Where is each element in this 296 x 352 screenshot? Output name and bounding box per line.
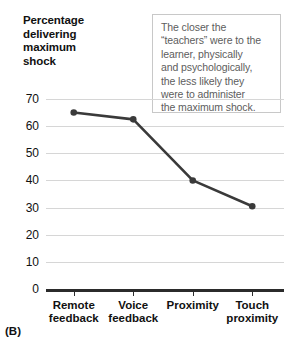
- callout-line: and psychologically,: [161, 61, 273, 74]
- callout-line: the less likely they: [161, 75, 273, 88]
- x-axis-tick-label: Touchproximity: [226, 299, 278, 325]
- x-axis-tick-label-line: feedback: [49, 312, 99, 325]
- y-axis-tick-label: 70: [26, 92, 39, 106]
- x-axis-tick-label-line: proximity: [226, 312, 278, 325]
- x-axis-tick-label: Remotefeedback: [49, 299, 99, 325]
- x-axis-tick-label-line: Voice: [108, 299, 158, 312]
- x-axis-tick: [252, 292, 253, 296]
- y-axis-tick-label: 40: [26, 173, 39, 187]
- y-axis-tick-label: 30: [26, 201, 39, 215]
- series-line: [74, 113, 253, 207]
- panel-label: (B): [5, 325, 21, 337]
- y-axis-title-line: delivering: [23, 28, 133, 42]
- data-point-marker: [249, 203, 256, 210]
- y-axis-title: Percentage delivering maximum shock: [23, 14, 133, 68]
- data-point-marker: [130, 116, 137, 123]
- x-axis-tick-label-line: feedback: [108, 312, 158, 325]
- y-axis-tick-label: 60: [26, 119, 39, 133]
- x-axis-tick-label-line: Proximity: [167, 299, 219, 312]
- x-axis-tick: [133, 292, 134, 296]
- y-axis-title-line: maximum: [23, 41, 133, 55]
- callout-line: The closer the: [161, 21, 273, 34]
- x-axis-line: [46, 289, 284, 292]
- callout-line: learner, physically: [161, 48, 273, 61]
- callout-line: “teachers” were to the: [161, 34, 273, 47]
- y-axis-title-line: Percentage: [23, 14, 133, 28]
- y-axis-tick-label: 10: [26, 255, 39, 269]
- x-axis-tick-label-line: Touch: [226, 299, 278, 312]
- x-axis-tick: [74, 292, 75, 296]
- x-axis-tick-label: Proximity: [167, 299, 219, 312]
- data-point-marker: [70, 109, 77, 116]
- y-axis-title-line: shock: [23, 55, 133, 69]
- data-series: [46, 99, 284, 289]
- x-axis-tick-label-line: Remote: [49, 299, 99, 312]
- y-axis-tick-label: 0: [32, 282, 39, 296]
- plot-area: 010203040506070RemotefeedbackVoicefeedba…: [46, 99, 284, 289]
- y-axis-tick-label: 50: [26, 146, 39, 160]
- data-point-marker: [189, 177, 196, 184]
- x-axis-tick-label: Voicefeedback: [108, 299, 158, 325]
- figure-panel-b: Percentage delivering maximum shock The …: [0, 0, 296, 352]
- x-axis-tick: [193, 292, 194, 296]
- y-axis-tick-label: 20: [26, 228, 39, 242]
